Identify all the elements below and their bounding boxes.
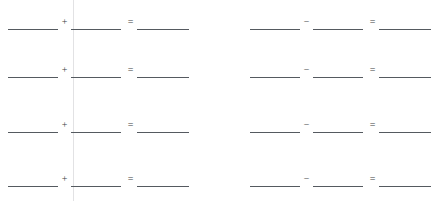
operand-a-blank[interactable]: [8, 119, 58, 133]
result-blank[interactable]: [379, 119, 431, 133]
operand-a-blank[interactable]: [250, 173, 300, 187]
operand-a-blank[interactable]: [8, 64, 58, 78]
equals-sign: =: [124, 65, 137, 78]
operand-b-blank[interactable]: [71, 119, 121, 133]
equals-sign: =: [124, 17, 137, 30]
operand-b-blank[interactable]: [313, 173, 363, 187]
result-blank[interactable]: [379, 173, 431, 187]
operand-b-blank[interactable]: [313, 119, 363, 133]
equation-row: + =: [8, 62, 189, 78]
equals-sign: =: [366, 65, 379, 78]
result-blank[interactable]: [379, 64, 431, 78]
equation-row: + =: [8, 14, 189, 30]
operand-a-blank[interactable]: [8, 16, 58, 30]
equals-sign: =: [366, 17, 379, 30]
equation-row: − =: [250, 117, 431, 133]
worksheet-page: + = + = + = + = − = −: [0, 0, 437, 201]
equals-sign: =: [366, 120, 379, 133]
equals-sign: =: [124, 120, 137, 133]
result-blank[interactable]: [379, 16, 431, 30]
result-blank[interactable]: [137, 16, 189, 30]
operand-a-blank[interactable]: [8, 173, 58, 187]
minus-sign: −: [300, 174, 313, 187]
minus-sign: −: [300, 65, 313, 78]
equation-row: − =: [250, 62, 431, 78]
equation-row: − =: [250, 171, 431, 187]
equals-sign: =: [366, 174, 379, 187]
operand-a-blank[interactable]: [250, 64, 300, 78]
equals-sign: =: [124, 174, 137, 187]
plus-sign: +: [58, 65, 71, 78]
minus-sign: −: [300, 120, 313, 133]
operand-a-blank[interactable]: [250, 16, 300, 30]
result-blank[interactable]: [137, 119, 189, 133]
operand-a-blank[interactable]: [250, 119, 300, 133]
plus-sign: +: [58, 17, 71, 30]
result-blank[interactable]: [137, 173, 189, 187]
operand-b-blank[interactable]: [71, 173, 121, 187]
operand-b-blank[interactable]: [71, 16, 121, 30]
plus-sign: +: [58, 120, 71, 133]
result-blank[interactable]: [137, 64, 189, 78]
plus-sign: +: [58, 174, 71, 187]
operand-b-blank[interactable]: [313, 16, 363, 30]
equation-row: − =: [250, 14, 431, 30]
minus-sign: −: [300, 17, 313, 30]
equation-row: + =: [8, 117, 189, 133]
equation-row: + =: [8, 171, 189, 187]
operand-b-blank[interactable]: [313, 64, 363, 78]
operand-b-blank[interactable]: [71, 64, 121, 78]
